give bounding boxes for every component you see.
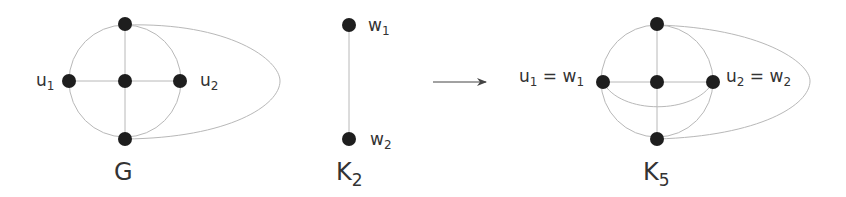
k5-label-right: u2 = w2	[726, 66, 791, 89]
k5-node-center	[650, 75, 664, 89]
g-node-u1	[62, 74, 76, 88]
graph-g: u1 u2 G	[36, 17, 280, 186]
g-node-center	[118, 74, 132, 88]
k2-label-w1: w1	[368, 15, 390, 38]
g-node-top	[118, 17, 132, 31]
k5-title: K5	[643, 158, 670, 190]
g-label-u1: u1	[36, 70, 54, 93]
k2-label-w2: w2	[370, 129, 392, 152]
diagram-canvas: u1 u2 G w1 w2 K2 u1 = w1 u2 = w2 K5	[0, 0, 846, 197]
g-node-bottom	[118, 132, 132, 146]
k5-node-top	[650, 17, 664, 31]
k5-node-bottom	[650, 132, 664, 146]
g-label-u2: u2	[200, 70, 218, 93]
k5-node-left	[596, 75, 610, 89]
g-node-u2	[173, 74, 187, 88]
k2-title: K2	[336, 158, 363, 190]
graph-k5: u1 = w1 u2 = w2 K5	[519, 17, 810, 190]
graph-k2: w1 w2 K2	[336, 15, 392, 190]
k5-label-left: u1 = w1	[519, 66, 584, 89]
k2-node-w1	[342, 18, 356, 32]
k2-node-w2	[342, 132, 356, 146]
k5-node-right	[706, 75, 720, 89]
g-title: G	[114, 158, 133, 186]
